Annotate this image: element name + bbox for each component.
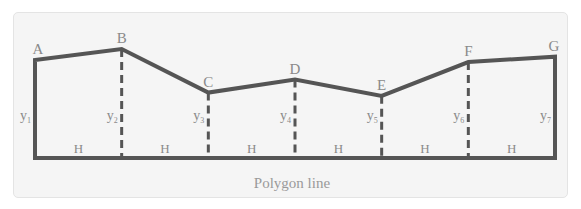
- figure-caption: Polygon line: [254, 175, 331, 191]
- interval-label-h-1: H: [74, 141, 83, 156]
- interval-label-h-3: H: [247, 141, 256, 156]
- labels: ABCDEFGy1y2y3y4y5y6y7HHHHHH: [20, 30, 560, 156]
- interval-label-h-6: H: [507, 141, 516, 156]
- point-label-b: B: [117, 30, 127, 46]
- interval-label-h-5: H: [420, 141, 429, 156]
- point-label-e: E: [377, 77, 386, 93]
- interval-label-h-2: H: [160, 141, 169, 156]
- point-label-f: F: [464, 43, 472, 59]
- ordinate-label-y2: y2: [107, 108, 118, 125]
- polygon-line-diagram: ABCDEFGy1y2y3y4y5y6y7HHHHHH Polygon line: [0, 0, 581, 209]
- point-label-a: A: [33, 41, 44, 57]
- point-label-g: G: [549, 38, 560, 54]
- interval-label-h-4: H: [334, 141, 343, 156]
- ordinate-label-y7: y7: [540, 108, 551, 125]
- ordinate-label-y4: y4: [280, 108, 291, 125]
- point-label-c: C: [203, 74, 213, 90]
- point-label-d: D: [290, 61, 301, 77]
- ordinate-label-y1: y1: [20, 108, 31, 125]
- ordinate-label-y5: y5: [367, 108, 378, 125]
- ordinate-label-y6: y6: [453, 108, 464, 125]
- ordinate-label-y3: y3: [193, 108, 204, 125]
